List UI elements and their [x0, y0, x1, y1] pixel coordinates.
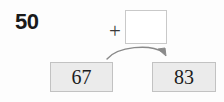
empty-answer-box[interactable] [125, 10, 167, 44]
choice-box-0[interactable]: 67 [50, 62, 113, 92]
target-number-label: 50 [15, 11, 38, 33]
choice-box-1[interactable]: 83 [152, 62, 216, 92]
choice-box-1-label: 83 [174, 67, 194, 87]
curved-arrow-right-icon [104, 42, 176, 64]
plus-icon: + [107, 22, 123, 40]
choice-box-0-label: 67 [72, 67, 92, 87]
math-problem-worksheet: 50 + 67 83 [0, 0, 224, 102]
